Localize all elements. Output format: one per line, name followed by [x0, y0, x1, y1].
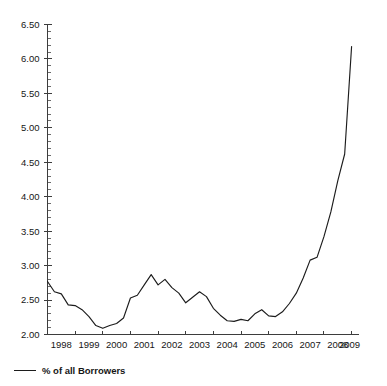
x-axis-tick-label: 2000 — [106, 339, 127, 350]
x-axis-tick-label: 2003 — [189, 339, 210, 350]
y-axis-tick-label: 6.00 — [21, 53, 40, 64]
legend-line-swatch — [14, 370, 36, 371]
x-axis-tick-label: 2005 — [244, 339, 265, 350]
y-axis-tick-label: 4.50 — [21, 157, 40, 168]
y-axis-tick-label: 3.50 — [21, 226, 40, 237]
line-chart: 2.002.503.003.504.004.505.005.506.006.50… — [0, 0, 387, 386]
y-axis-tick-label: 5.00 — [21, 122, 40, 133]
y-axis-tick-label: 6.50 — [21, 19, 40, 30]
y-axis-tick-label: 4.00 — [21, 191, 40, 202]
x-axis-tick-label: 2001 — [134, 339, 155, 350]
y-axis-tick-label: 3.00 — [21, 260, 40, 271]
legend-label: % of all Borrowers — [42, 365, 125, 376]
chart-container: 2.002.503.003.504.004.505.005.506.006.50… — [0, 0, 387, 386]
y-axis-tick-label: 2.50 — [21, 294, 40, 305]
x-axis-tick-label: 2006 — [272, 339, 293, 350]
x-axis-tick-label: 2002 — [161, 339, 182, 350]
x-axis-tick-label: 1999 — [78, 339, 99, 350]
y-axis-tick-label: 5.50 — [21, 88, 40, 99]
x-axis-tick-label: 2007 — [300, 339, 321, 350]
x-axis-tick-label: 2009 — [339, 339, 360, 350]
y-axis-tick-label: 2.00 — [21, 329, 40, 340]
chart-legend: % of all Borrowers — [14, 365, 125, 376]
x-axis-tick-label: 1998 — [51, 339, 72, 350]
series-line-pct-all-borrowers — [48, 47, 352, 329]
x-axis-tick-label: 2004 — [217, 339, 238, 350]
